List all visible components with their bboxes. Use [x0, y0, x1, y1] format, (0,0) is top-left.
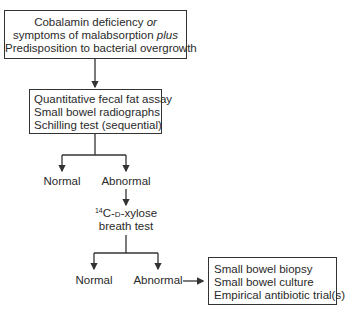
start-condition-box: Cobalamin deficiency or symptoms of mala… — [4, 10, 187, 59]
result1-normal-label: Normal — [43, 175, 80, 188]
start-line-1: Cobalamin deficiency or — [5, 16, 186, 29]
followup-box: Small bowel biopsy Small bowel culture E… — [208, 257, 337, 305]
initial-tests-box: Quantitative fecal fat assay Small bowel… — [29, 89, 162, 134]
result2-normal-label: Normal — [75, 274, 112, 287]
followup-item: Small bowel biopsy — [214, 263, 336, 276]
start-line-3: Predisposition to bacterial overgrowth — [5, 42, 186, 55]
result1-abnormal-label: Abnormal — [101, 175, 150, 188]
result2-abnormal-label: Abnormal — [133, 274, 182, 287]
followup-item: Empirical antibiotic trial(s) — [214, 289, 336, 302]
test-item: Small bowel radiographs — [34, 106, 161, 119]
followup-item: Small bowel culture — [214, 276, 336, 289]
test-item: Quantitative fecal fat assay — [34, 93, 161, 106]
test-item: Schilling test (sequential) — [34, 119, 161, 132]
xylose-breath-test-label: 14C-d-xylose breath test — [95, 207, 157, 233]
start-line-2: symptoms of malabsorption plus — [5, 29, 186, 42]
